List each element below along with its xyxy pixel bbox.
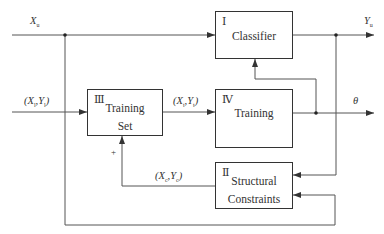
label-x-unlabeled: Xu xyxy=(30,15,39,28)
block-numeral: Ⅰ xyxy=(222,15,226,28)
block-label: Classifier xyxy=(216,28,292,44)
block-label-line1: Training xyxy=(88,100,162,116)
label-theta: θ xyxy=(353,95,358,106)
block-label: Training xyxy=(216,105,292,121)
block-label-line2: Constraints xyxy=(216,191,292,207)
label-training-output: (Xt,Yt) xyxy=(173,95,198,108)
block-training: Ⅳ Training xyxy=(215,89,293,148)
block-label-line2: Set xyxy=(88,118,162,134)
block-training-set: Ⅲ Training Set xyxy=(87,89,163,136)
block-structural-constraints: Ⅱ Structural Constraints xyxy=(215,162,293,209)
block-classifier: Ⅰ Classifier xyxy=(215,11,293,59)
block-label-line1: Structural xyxy=(216,173,292,189)
label-labeled-input: (Xl,Yl) xyxy=(24,95,49,108)
label-constraint-output: (Xc,Yc) xyxy=(155,170,182,183)
diagram-canvas: Ⅰ Classifier Ⅳ Training Ⅲ Training Set Ⅱ… xyxy=(0,0,384,234)
label-y-output: Yu xyxy=(364,15,373,28)
connector-lines xyxy=(0,0,384,234)
label-plus-sign: + xyxy=(111,147,116,157)
